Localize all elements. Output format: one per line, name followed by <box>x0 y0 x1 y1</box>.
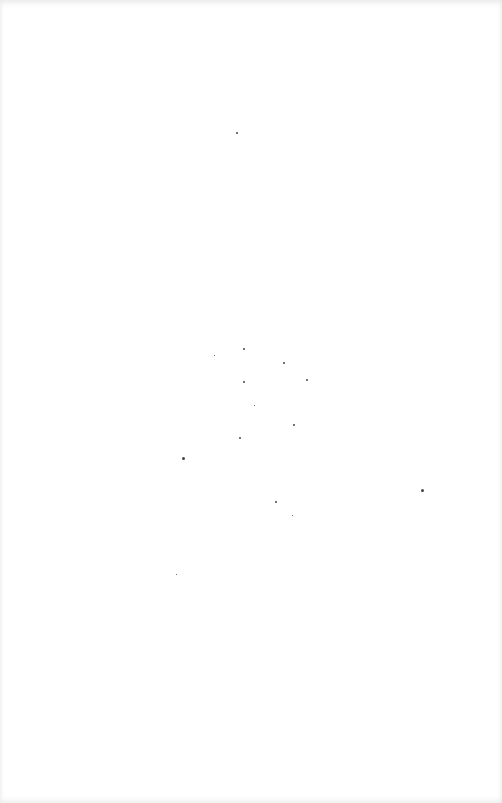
scan-speck <box>275 501 277 503</box>
scan-speck <box>292 515 293 516</box>
scan-speck <box>421 489 424 492</box>
blank-page <box>0 0 502 803</box>
scan-speck <box>293 424 295 426</box>
scan-speck <box>176 574 177 575</box>
scan-speck <box>306 379 308 381</box>
scan-speck <box>283 362 285 364</box>
scan-speck <box>243 348 245 350</box>
scan-speck <box>236 132 238 134</box>
scan-speck <box>243 381 245 383</box>
scan-speck <box>254 405 255 406</box>
scan-speck <box>182 457 185 460</box>
scan-speck <box>239 437 241 439</box>
scan-speck <box>214 355 215 356</box>
